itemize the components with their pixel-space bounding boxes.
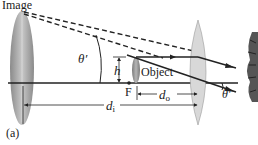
object-label: Object	[141, 65, 174, 79]
angle-label-left: θ′	[78, 51, 87, 66]
angle-arc-left	[96, 35, 101, 83]
eye-illustration	[247, 32, 258, 102]
angle-label-right: θ′	[222, 87, 231, 101]
focal-point-label: F	[125, 85, 132, 99]
panel-label: (a)	[6, 126, 19, 140]
magnifier-diagram: θ′ θ′ h F Object Image do di (a)	[0, 0, 258, 145]
dashed-ray-upper	[24, 12, 198, 52]
image-label: Image	[2, 0, 32, 12]
height-label: h	[114, 63, 121, 78]
arrow-head	[117, 58, 121, 62]
dashed-ray-lower	[24, 14, 163, 58]
arrow-head	[117, 79, 121, 83]
converging-lens	[190, 20, 206, 125]
arrow-head	[225, 63, 234, 68]
arrow-head	[138, 92, 142, 96]
object-leaf	[132, 57, 140, 83]
arrow-head	[170, 55, 176, 60]
